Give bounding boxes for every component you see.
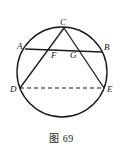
geometry-figure: A B C D E F G 图 69 (0, 0, 123, 156)
vertex-label-D: D (9, 84, 17, 94)
vertex-label-E: E (106, 84, 113, 94)
chord-AB (25, 49, 102, 52)
figure-caption: 图 69 (0, 130, 123, 145)
vertex-label-C: C (60, 17, 67, 27)
vertex-label-G: G (70, 50, 77, 60)
segment-CD (20, 28, 64, 88)
vertex-label-B: B (104, 42, 110, 52)
vertex-label-A: A (16, 41, 23, 51)
vertex-label-F: F (50, 50, 57, 60)
